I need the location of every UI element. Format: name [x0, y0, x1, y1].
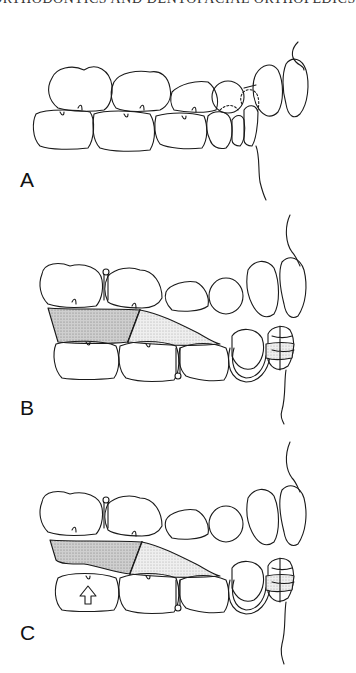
lower-molar-2 [93, 111, 155, 151]
lower-lip-contour [256, 146, 266, 200]
upper-canine [247, 261, 279, 316]
lower-premolar-2 [232, 561, 264, 601]
panel-a [33, 42, 308, 200]
spring-ball [103, 269, 109, 275]
lower-premolar-1 [155, 113, 207, 149]
bite-block-anterior [130, 542, 220, 577]
spring-ball [175, 605, 181, 611]
lower-premolar-2 [232, 329, 264, 369]
upper-premolar-2 [209, 278, 243, 314]
upper-lip-contour [286, 442, 300, 492]
eruption-arrow-icon [80, 586, 96, 604]
lower-premolar-1 [179, 576, 229, 613]
lower-premolar-1 [179, 344, 229, 381]
upper-molar-1 [49, 67, 113, 111]
bite-block-anterior [128, 310, 220, 345]
upper-molar-2 [111, 71, 170, 111]
upper-molar-1 [40, 492, 103, 536]
lower-molar-1 [54, 341, 119, 379]
panel-label-b: B [20, 396, 34, 420]
lower-molar-1 [33, 110, 93, 149]
spring-ball [103, 497, 109, 503]
upper-molar-1 [40, 264, 103, 308]
panel-label-a: A [20, 168, 34, 192]
lower-premolar-2 [207, 112, 232, 149]
upper-premolar-1 [165, 281, 208, 311]
upper-premolar-1 [165, 509, 208, 539]
lower-lip-contour [281, 370, 286, 424]
upper-incisor [283, 59, 308, 117]
lower-canine [232, 116, 245, 147]
upper-canine [253, 65, 283, 116]
upper-molar-2 [105, 268, 162, 308]
upper-incisor [280, 486, 306, 546]
upper-premolar-2 [209, 506, 243, 542]
spring-ball [175, 373, 181, 379]
lower-incisor [244, 106, 258, 146]
panel-label-c: C [20, 621, 35, 645]
upper-canine [247, 489, 279, 544]
panel-b [40, 215, 306, 424]
upper-incisor [280, 258, 306, 318]
upper-lip-contour [292, 42, 304, 70]
lower-molar-1-erupting [55, 574, 118, 612]
bite-block-posterior [50, 540, 142, 574]
lower-lip-contour [281, 602, 286, 664]
upper-molar-2 [105, 496, 162, 536]
bite-block-posterior [48, 308, 140, 344]
panel-c [40, 442, 306, 664]
